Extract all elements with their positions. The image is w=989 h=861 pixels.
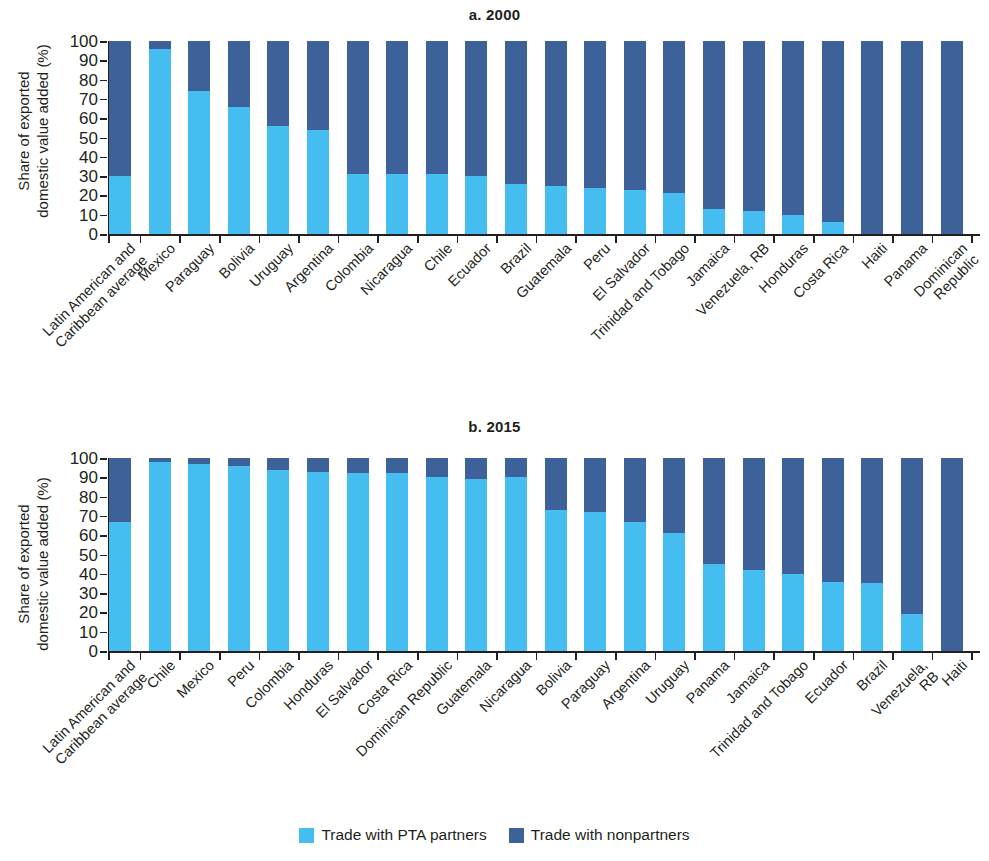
- bar-segment-nonpartners: [228, 41, 250, 107]
- y-tick-mark: [100, 157, 107, 159]
- panel-b-y-axis-label: Share of exported domestic value added (…: [14, 464, 52, 664]
- y-tick-label: 10: [58, 206, 98, 223]
- bar-segment-nonpartners: [782, 41, 804, 215]
- bar-stack: [386, 41, 408, 234]
- y-tick-mark: [100, 176, 107, 178]
- x-axis-category-label: Peru: [581, 240, 614, 273]
- bar-stack: [505, 41, 527, 234]
- panel-a-x-axis-line: [108, 234, 980, 236]
- y-tick-label: 70: [58, 507, 98, 524]
- y-tick-label: 40: [58, 565, 98, 582]
- bar-stack: [426, 41, 448, 234]
- x-axis-category-label: Ecuador: [445, 240, 495, 290]
- bar-segment-pta-partners: [347, 473, 369, 651]
- y-tick-label: 100: [58, 450, 98, 467]
- y-tick-mark: [100, 612, 107, 614]
- x-axis-category-label: Haiti: [859, 240, 891, 272]
- bar-segment-pta-partners: [743, 570, 765, 651]
- bar-segment-pta-partners: [109, 176, 131, 234]
- bar-stack: [347, 41, 369, 234]
- bar-segment-pta-partners: [347, 174, 369, 234]
- bar-segment-nonpartners: [505, 41, 527, 184]
- bar-segment-nonpartners: [584, 458, 606, 512]
- bar-stack: [584, 41, 606, 234]
- bar-segment-nonpartners: [624, 458, 646, 522]
- bar-stack: [188, 458, 210, 651]
- bar-segment-nonpartners: [426, 41, 448, 174]
- bar-segment-nonpartners: [505, 458, 527, 477]
- panel-a-2000: a. 2000 Share of exported domestic value…: [0, 0, 989, 410]
- bar-stack: [941, 458, 963, 651]
- y-tick-mark: [100, 234, 107, 236]
- y-tick-label: 60: [58, 110, 98, 127]
- y-tick-mark: [100, 632, 107, 634]
- y-tick-mark: [100, 651, 107, 653]
- bar-stack: [861, 41, 883, 234]
- figure-legend: Trade with PTA partners Trade with nonpa…: [0, 826, 989, 844]
- bar-stack: [624, 458, 646, 651]
- bar-segment-nonpartners: [663, 41, 685, 193]
- bar-segment-pta-partners: [267, 126, 289, 234]
- y-tick-mark: [100, 477, 107, 479]
- bar-segment-pta-partners: [782, 215, 804, 234]
- y-tick-label: 30: [58, 168, 98, 185]
- bar-stack: [109, 458, 131, 651]
- bar-segment-nonpartners: [861, 458, 883, 583]
- bar-stack: [624, 41, 646, 234]
- bar-stack: [465, 458, 487, 651]
- bar-segment-pta-partners: [228, 466, 250, 651]
- bar-stack: [307, 41, 329, 234]
- bar-stack: [743, 458, 765, 651]
- bar-segment-pta-partners: [822, 222, 844, 234]
- panel-b-bars: [108, 458, 980, 651]
- bar-segment-nonpartners: [941, 458, 963, 651]
- bar-segment-pta-partners: [703, 209, 725, 234]
- panel-a-title: a. 2000: [0, 6, 989, 23]
- bar-stack: [426, 458, 448, 651]
- bar-segment-nonpartners: [624, 41, 646, 190]
- panel-b-plot-area: 0102030405060708090100: [108, 458, 980, 651]
- bar-stack: [267, 41, 289, 234]
- legend-swatch-nonpartners-icon: [509, 828, 524, 843]
- bar-segment-nonpartners: [109, 458, 131, 522]
- bar-stack: [703, 41, 725, 234]
- y-tick-label: 20: [58, 604, 98, 621]
- bar-segment-pta-partners: [545, 510, 567, 651]
- y-tick-mark: [100, 593, 107, 595]
- y-tick-mark: [100, 60, 107, 62]
- bar-stack: [267, 458, 289, 651]
- bar-segment-pta-partners: [505, 477, 527, 651]
- bar-stack: [307, 458, 329, 651]
- bar-segment-nonpartners: [267, 458, 289, 470]
- bar-stack: [861, 458, 883, 651]
- figure-root: a. 2000 Share of exported domestic value…: [0, 0, 989, 861]
- y-tick-label: 60: [58, 527, 98, 544]
- y-tick-label: 0: [58, 643, 98, 660]
- bar-segment-pta-partners: [307, 472, 329, 651]
- bar-segment-nonpartners: [188, 41, 210, 91]
- bar-stack: [149, 458, 171, 651]
- y-tick-label: 70: [58, 90, 98, 107]
- bar-segment-nonpartners: [109, 41, 131, 176]
- bar-stack: [505, 458, 527, 651]
- bar-segment-nonpartners: [465, 41, 487, 176]
- bar-segment-pta-partners: [465, 176, 487, 234]
- bar-stack: [228, 41, 250, 234]
- y-tick-mark: [100, 555, 107, 557]
- bar-segment-pta-partners: [545, 186, 567, 234]
- x-axis-category-label: Brazil: [497, 240, 534, 277]
- bar-segment-pta-partners: [822, 582, 844, 651]
- y-tick-label: 0: [58, 226, 98, 243]
- bar-segment-pta-partners: [228, 107, 250, 234]
- bar-segment-pta-partners: [782, 574, 804, 651]
- bar-stack: [822, 458, 844, 651]
- x-axis-category-label: Chile: [420, 240, 455, 275]
- bar-segment-pta-partners: [901, 614, 923, 651]
- y-tick-label: 80: [58, 71, 98, 88]
- bar-segment-nonpartners: [822, 458, 844, 582]
- bar-segment-pta-partners: [109, 522, 131, 651]
- panel-a-x-axis-labels: Latin American and Caribbean averageMexi…: [108, 240, 988, 241]
- bar-segment-nonpartners: [307, 41, 329, 130]
- bar-stack: [901, 458, 923, 651]
- panel-a-plot-area: 0102030405060708090100: [108, 41, 980, 234]
